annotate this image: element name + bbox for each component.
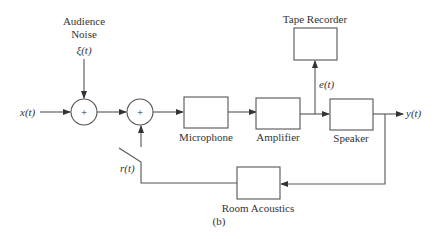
room-acoustics-label: Room Acoustics <box>222 202 294 214</box>
amplifier-label: Amplifier <box>256 131 300 143</box>
speaker-label: Speaker <box>333 132 369 144</box>
room-acoustics-block <box>237 167 280 199</box>
input-label: x(t) <box>19 106 36 119</box>
amplifier-block <box>256 98 300 129</box>
feedback-signal-label: r(t) <box>120 162 135 175</box>
noise-label: Noise <box>71 28 97 40</box>
speaker-block <box>330 99 373 130</box>
tape-recorder-block <box>294 28 337 60</box>
feedback-switch-line <box>119 148 237 183</box>
sum2-plus: + <box>137 106 143 118</box>
sum1-plus: + <box>81 106 87 118</box>
block-diagram: Audience Noise ξ(t) x(t) + + Microphone … <box>0 0 435 239</box>
output-label: y(t) <box>405 107 422 120</box>
audience-label: Audience <box>63 15 105 27</box>
microphone-block <box>184 97 228 128</box>
figure-caption: (b) <box>213 215 226 228</box>
microphone-label: Microphone <box>179 131 233 143</box>
tape-signal-label: e(t) <box>319 78 335 91</box>
noise-signal-label: ξ(t) <box>76 44 91 57</box>
tape-recorder-label: Tape Recorder <box>283 13 348 25</box>
